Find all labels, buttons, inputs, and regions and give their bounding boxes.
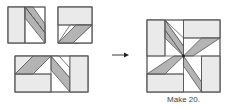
caption: Make 20. bbox=[147, 95, 220, 104]
unit-b bbox=[58, 7, 92, 43]
eight-pointed-star-block bbox=[147, 20, 220, 92]
arrow-right-icon bbox=[112, 53, 129, 58]
unit-a bbox=[8, 7, 45, 43]
diagram-canvas bbox=[0, 0, 231, 110]
unit-c bbox=[15, 56, 88, 92]
